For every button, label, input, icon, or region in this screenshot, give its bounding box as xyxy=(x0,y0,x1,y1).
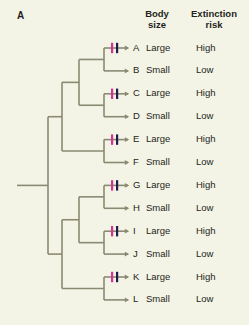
tip-marker-d xyxy=(125,114,129,119)
tip-label-c: C xyxy=(133,87,140,98)
tip-marker-l xyxy=(125,298,129,303)
tip-label-h: H xyxy=(133,202,140,213)
tick-navy-i xyxy=(116,226,118,236)
extinction-risk-value-j: Low xyxy=(196,248,213,259)
extinction-risk-value-e: High xyxy=(196,133,216,144)
tick-navy-k xyxy=(116,272,118,282)
tip-label-a: A xyxy=(133,42,139,53)
tip-label-d: D xyxy=(133,110,140,121)
tip-label-g: G xyxy=(133,179,140,190)
tip-label-k: K xyxy=(133,271,139,282)
tip-marker-e xyxy=(125,137,129,142)
tick-magenta-e xyxy=(111,134,113,144)
tip-label-e: E xyxy=(133,133,139,144)
body-size-value-b: Small xyxy=(146,64,170,75)
extinction-risk-value-d: Low xyxy=(196,110,213,121)
tick-magenta-k xyxy=(111,272,113,282)
body-size-value-a: Large xyxy=(146,42,170,53)
tick-navy-e xyxy=(116,134,118,144)
body-size-value-f: Small xyxy=(146,156,170,167)
tip-marker-i xyxy=(125,229,129,234)
tick-magenta-g xyxy=(111,180,113,190)
extinction-risk-value-c: High xyxy=(196,87,216,98)
extinction-risk-value-h: Low xyxy=(196,202,213,213)
tip-label-f: F xyxy=(133,156,139,167)
body-size-value-g: Large xyxy=(146,179,170,190)
tick-magenta-i xyxy=(111,226,113,236)
body-size-value-k: Large xyxy=(146,271,170,282)
tip-label-j: J xyxy=(133,248,138,259)
body-size-value-l: Small xyxy=(146,293,170,304)
tip-label-i: I xyxy=(133,225,136,236)
extinction-risk-value-k: High xyxy=(196,271,216,282)
extinction-risk-value-i: High xyxy=(196,225,216,236)
tick-navy-a xyxy=(116,43,118,53)
tick-magenta-a xyxy=(111,43,113,53)
body-size-value-e: Large xyxy=(146,133,170,144)
extinction-risk-value-a: High xyxy=(196,42,216,53)
extinction-risk-value-l: Low xyxy=(196,293,213,304)
tick-navy-c xyxy=(116,89,118,99)
tick-navy-g xyxy=(116,180,118,190)
tip-marker-h xyxy=(125,206,129,211)
body-size-value-c: Large xyxy=(146,87,170,98)
body-size-value-i: Large xyxy=(146,225,170,236)
tip-marker-g xyxy=(125,183,129,188)
tip-marker-c xyxy=(125,91,129,96)
tree-tip-markers xyxy=(125,46,129,303)
figure-panel-a: A Body size Extinction risk ABCDEFGHIJKL… xyxy=(0,0,249,325)
tip-marker-b xyxy=(125,69,129,74)
tip-label-l: L xyxy=(133,293,138,304)
tip-label-b: B xyxy=(133,64,139,75)
tip-marker-j xyxy=(125,252,129,257)
tick-magenta-c xyxy=(111,89,113,99)
tip-marker-k xyxy=(125,275,129,280)
tree-branches xyxy=(17,48,128,300)
tip-marker-a xyxy=(125,46,129,51)
extinction-risk-value-f: Low xyxy=(196,156,213,167)
extinction-risk-value-g: High xyxy=(196,179,216,190)
body-size-value-j: Small xyxy=(146,248,170,259)
body-size-value-h: Small xyxy=(146,202,170,213)
extinction-risk-value-b: Low xyxy=(196,64,213,75)
body-size-value-d: Small xyxy=(146,110,170,121)
tip-marker-f xyxy=(125,160,129,165)
